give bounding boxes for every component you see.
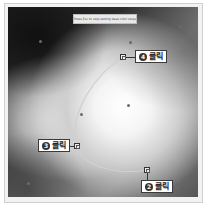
callout-label: 클릭 xyxy=(52,141,66,151)
hint-label: Press Esc to stop setting base color sto… xyxy=(73,14,137,24)
color-point[interactable] xyxy=(179,25,182,28)
connector-line xyxy=(147,173,148,180)
callout-step-2: 2 클릭 xyxy=(141,180,173,193)
callout-label: 클릭 xyxy=(149,52,163,62)
connector-line xyxy=(126,57,135,58)
callout-step-4: 4 클릭 xyxy=(135,50,167,63)
gradient-handle-3[interactable] xyxy=(74,143,80,149)
color-point[interactable] xyxy=(27,182,30,185)
gradient-handle-2[interactable] xyxy=(144,167,150,173)
gradient-handle-4[interactable] xyxy=(120,54,126,60)
callout-label: 클릭 xyxy=(155,182,169,192)
color-point[interactable] xyxy=(176,186,179,189)
step-number-badge: 4 xyxy=(139,53,147,61)
gradient-path-overlay xyxy=(0,0,208,214)
color-point[interactable] xyxy=(127,104,130,107)
color-point[interactable] xyxy=(80,113,83,116)
color-point[interactable] xyxy=(39,40,42,43)
step-number-badge: 2 xyxy=(145,183,153,191)
gradient-curve[interactable] xyxy=(75,57,147,172)
color-point[interactable] xyxy=(129,41,132,44)
step-number-badge: 3 xyxy=(42,142,50,150)
callout-step-3: 3 클릭 xyxy=(38,139,70,152)
